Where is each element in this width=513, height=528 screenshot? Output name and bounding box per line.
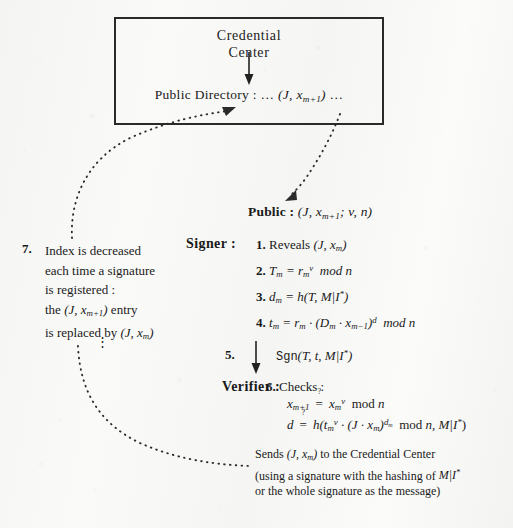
question-mark-2: ? <box>297 408 310 417</box>
sends-line-2: (using a signature with the hashing of M… <box>255 466 460 484</box>
sends-line-1: Sends (J, xm) to the Credential Center <box>255 447 460 466</box>
question-mark-1: ? <box>313 387 326 396</box>
step-5-text: Sgn(T, t, M|I*) <box>276 348 352 364</box>
down-arrow-icon-step5 <box>246 341 268 375</box>
signer-step-2-text: Tm = rmv mod n <box>269 263 352 278</box>
step-7-line-2: each time a signature <box>45 261 205 281</box>
verifier-step-6-num: 6. <box>266 379 276 394</box>
step-7-line-3: is registered : <box>45 280 205 300</box>
signer-step-3-text: dm = h(T, M|I*) <box>269 289 348 304</box>
step-7-line-5: is replaced by (J, xm) <box>45 323 205 347</box>
signer-step-3-num: 3. <box>256 289 266 304</box>
public-line: Public : (J, xm+1; v, n) <box>248 204 372 221</box>
verifier-equation-2: d ?= h(tmv · (J · xm)dm mod n, M|I*) <box>287 417 466 433</box>
step-5-num: 5. <box>225 347 235 363</box>
signer-step-4-num: 4. <box>256 315 266 330</box>
step-7-num: 7. <box>22 241 32 257</box>
step-7-body: Index is decreased each time a signature… <box>45 241 205 347</box>
signer-step-1-text: Reveals (J, xm) <box>269 237 347 252</box>
signer-step-3: 3. dm = h(T, M|I*) <box>256 285 415 311</box>
step-7-line-1: Index is decreased <box>45 241 205 261</box>
signer-step-2: 2. Tm = rmv mod n <box>256 259 415 285</box>
public-value: (J, xm+1; v, n) <box>298 204 373 219</box>
signer-steps-list: 1. Reveals (J, xm) 2. Tm = rmv mod n 3. … <box>256 235 415 337</box>
sends-block: Sends (J, xm) to the Credential Center (… <box>255 447 460 499</box>
signer-step-1-num: 1. <box>256 237 266 252</box>
public-label: Public : <box>248 204 294 219</box>
signer-step-1: 1. Reveals (J, xm) <box>256 235 415 259</box>
signer-step-4: 4. tm = rm · (Dm · xm−1)d mod n <box>256 311 415 337</box>
step-7-line-4: the (J, xm+1) entry <box>45 300 205 324</box>
sends-line-3: or the whole signature as the message) <box>255 484 460 500</box>
scanned-page: Credential Center Public Directory : … (… <box>0 0 513 528</box>
signer-step-2-num: 2. <box>256 263 266 278</box>
signer-step-4-text: tm = rm · (Dm · xm−1)d mod n <box>269 315 415 330</box>
step-7-vertical-dots: ⋮ <box>96 334 110 350</box>
